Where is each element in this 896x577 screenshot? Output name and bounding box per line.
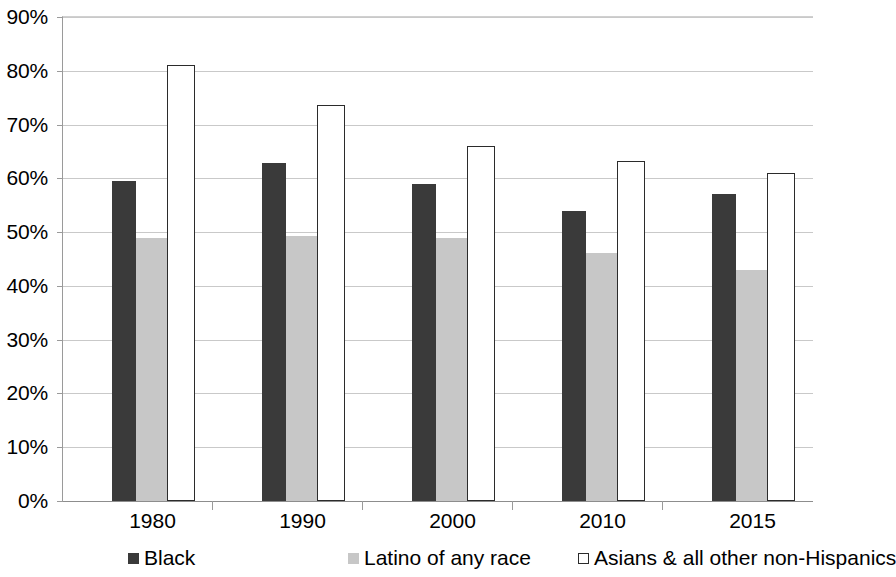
legend-label: Asians & all other non-Hispanics bbox=[594, 546, 896, 570]
bar bbox=[467, 146, 495, 501]
bar bbox=[412, 184, 436, 501]
y-axis-tick-label: 40% bbox=[7, 274, 48, 295]
bar-group bbox=[663, 17, 813, 501]
bar bbox=[767, 173, 795, 501]
x-axis-tick-mark bbox=[362, 501, 363, 510]
chart-legend: BlackLatino of any raceAsians & all othe… bbox=[0, 546, 819, 576]
y-axis-tick-label: 50% bbox=[7, 221, 48, 242]
x-axis-tick-label: 1980 bbox=[129, 508, 176, 534]
legend-item[interactable]: Latino of any race bbox=[348, 546, 531, 570]
y-axis-tick-label: 20% bbox=[7, 382, 48, 403]
bar bbox=[712, 194, 736, 501]
y-axis-tick-label: 70% bbox=[7, 113, 48, 134]
legend-label: Latino of any race bbox=[364, 546, 531, 570]
x-axis-labels: 19801990200020102015 bbox=[62, 508, 812, 538]
bar bbox=[736, 270, 767, 501]
legend-swatch-icon bbox=[128, 553, 139, 564]
bar bbox=[586, 253, 617, 501]
bar bbox=[317, 105, 345, 501]
y-axis-tick-label: 0% bbox=[18, 490, 48, 511]
legend-swatch-icon bbox=[578, 553, 589, 564]
bar-group bbox=[513, 17, 663, 501]
legend-swatch-icon bbox=[348, 553, 359, 564]
bar bbox=[136, 238, 167, 502]
bar-group bbox=[363, 17, 513, 501]
bar-group bbox=[63, 17, 213, 501]
legend-label: Black bbox=[144, 546, 195, 570]
y-axis-tick-label: 80% bbox=[7, 59, 48, 80]
y-axis-tick-mark bbox=[57, 501, 63, 502]
x-axis-tick-mark bbox=[212, 501, 213, 510]
y-axis-tick-label: 30% bbox=[7, 328, 48, 349]
legend-item[interactable]: Black bbox=[128, 546, 195, 570]
bar bbox=[617, 161, 645, 501]
x-axis-tick-label: 1990 bbox=[279, 508, 326, 534]
x-axis-tick-mark bbox=[662, 501, 663, 510]
y-axis-labels: 0%10%20%30%40%50%60%70%80%90% bbox=[0, 0, 54, 510]
bar bbox=[286, 236, 317, 501]
bar bbox=[562, 211, 586, 501]
bar-group bbox=[213, 17, 363, 501]
plot-area bbox=[62, 16, 813, 501]
x-axis-baseline bbox=[63, 501, 813, 502]
y-axis-tick-label: 90% bbox=[7, 6, 48, 27]
bar bbox=[167, 65, 195, 501]
x-axis-tick-label: 2015 bbox=[729, 508, 776, 534]
legend-item[interactable]: Asians & all other non-Hispanics bbox=[578, 546, 896, 570]
x-axis-tick-label: 2000 bbox=[429, 508, 476, 534]
bar bbox=[262, 163, 286, 501]
x-axis-tick-mark bbox=[512, 501, 513, 510]
bar bbox=[436, 238, 467, 502]
bar bbox=[112, 181, 136, 501]
y-axis-tick-label: 10% bbox=[7, 436, 48, 457]
y-axis-tick-label: 60% bbox=[7, 167, 48, 188]
x-axis-tick-label: 2010 bbox=[579, 508, 626, 534]
